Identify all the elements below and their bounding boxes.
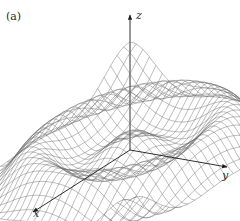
panel-label: (a) [6,10,21,23]
x-axis [33,150,130,212]
wireframe-surface [0,42,240,221]
x-axis-label: x [33,207,39,220]
y-axis [130,150,227,167]
y-axis-label: y [222,169,228,182]
z-axis-label: z [136,9,142,22]
surface-figure [0,0,240,221]
